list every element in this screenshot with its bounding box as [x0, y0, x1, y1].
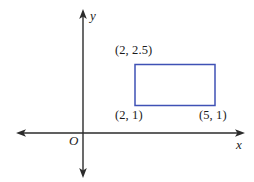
origin-label: O	[69, 134, 78, 147]
x-axis-label: x	[236, 138, 242, 151]
blue-rectangle-shape	[135, 65, 215, 106]
coordinate-plane-figure: y x O (2, 2.5) (2, 1) (5, 1)	[0, 0, 254, 182]
vertex-label-bottom-right: (5, 1)	[199, 109, 227, 122]
y-axis-label: y	[90, 9, 96, 22]
graph-canvas	[0, 0, 254, 182]
vertex-label-bottom-left: (2, 1)	[115, 109, 143, 122]
vertex-label-top-left: (2, 2.5)	[115, 44, 152, 57]
